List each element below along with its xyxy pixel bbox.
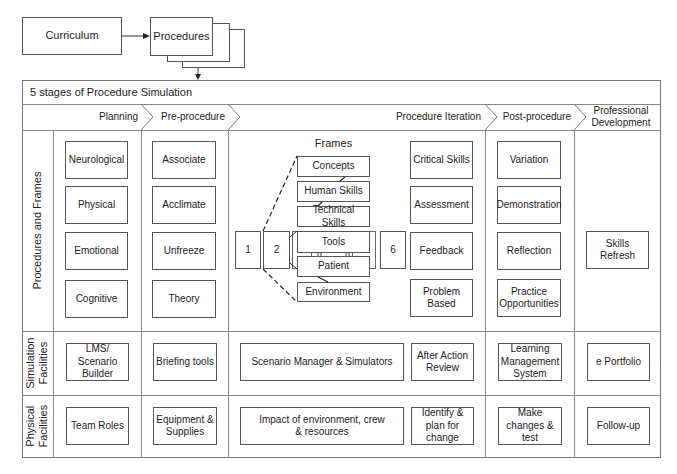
professional-item: Skills Refresh [586, 231, 649, 269]
iteration-item: Problem Based [410, 279, 473, 317]
sim-professional: e Portfolio [587, 343, 650, 381]
postprocedure-item: Reflection [497, 232, 561, 270]
phys-iteration-main: Impact of environment, crew & resources [240, 407, 404, 445]
frames-dashed-lines [0, 0, 677, 474]
postprocedure-item: Demonstration [497, 186, 561, 224]
postprocedure-item: Variation [497, 141, 561, 179]
phys-professional: Follow-up [587, 407, 650, 445]
iteration-item: Assessment [410, 186, 473, 224]
phys-iteration-side: Identify & plan for change [411, 407, 474, 445]
phys-postprocedure: Make changes & test [498, 407, 562, 445]
sim-iteration-side: After Action Review [411, 343, 474, 381]
iteration-item: Critical Skills [410, 141, 473, 179]
sim-preprocedure: Briefing tools [153, 343, 217, 381]
sim-postprocedure: Learning Management System [498, 343, 562, 381]
phys-preprocedure: Equipment & Supplies [153, 407, 217, 445]
postprocedure-item: Practice Opportunities [497, 279, 561, 317]
sim-planning: LMS/ Scenario Builder [66, 343, 129, 381]
phys-planning: Team Roles [66, 407, 129, 445]
iteration-item: Feedback [410, 232, 473, 270]
sim-iteration-main: Scenario Manager & Simulators [240, 343, 404, 381]
